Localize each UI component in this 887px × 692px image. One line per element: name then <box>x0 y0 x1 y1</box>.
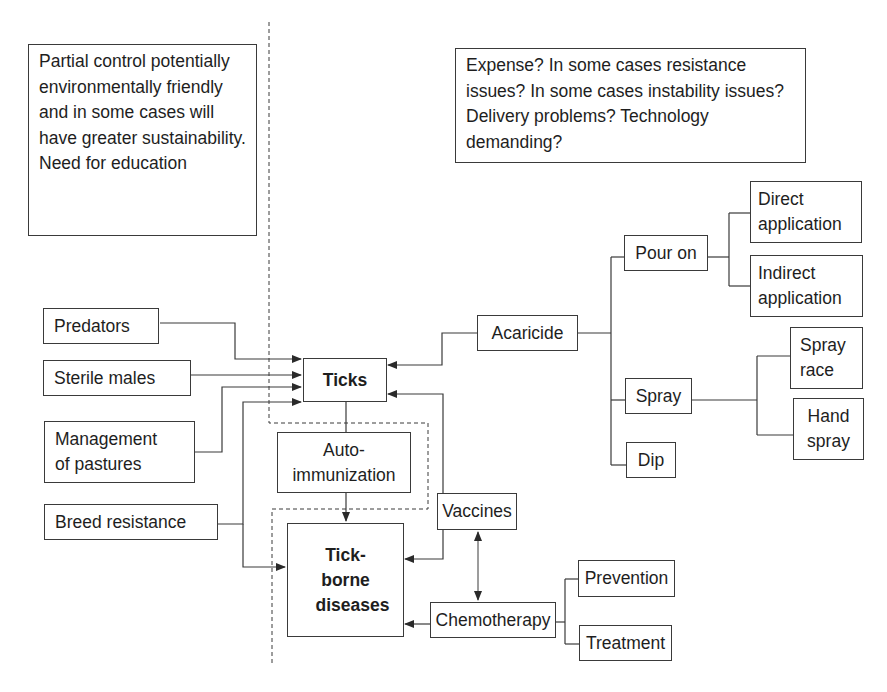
node-spray-race: Spray race <box>790 327 863 389</box>
node-indirect-application: Indirect application <box>750 255 863 317</box>
node-label: Auto-immunization <box>289 438 399 488</box>
node-label: Pour on <box>635 243 696 264</box>
node-tick-borne-diseases: Tick-borne diseases <box>287 523 404 637</box>
node-treatment: Treatment <box>579 625 672 661</box>
node-auto-immunization: Auto-immunization <box>277 432 411 493</box>
node-spray: Spray <box>625 378 692 414</box>
node-label: Spray <box>636 386 682 407</box>
node-hand-spray: Hand spray <box>793 398 864 460</box>
node-management-of-pastures: Management of pastures <box>44 421 195 483</box>
node-label: Hand spray <box>804 404 854 454</box>
node-label: Spray race <box>800 333 850 383</box>
node-label: Predators <box>54 316 130 337</box>
node-label: Breed resistance <box>55 512 186 533</box>
node-chemotherapy: Chemotherapy <box>430 602 556 638</box>
node-dip: Dip <box>626 442 676 478</box>
node-acaricide: Acaricide <box>477 315 578 351</box>
node-label: Indirect application <box>758 261 848 311</box>
drawbacks-note: Expense? In some cases resistance issues… <box>455 48 806 163</box>
node-label: Treatment <box>586 633 665 654</box>
node-direct-application: Direct application <box>750 181 862 243</box>
node-label: Dip <box>638 450 664 471</box>
node-ticks: Ticks <box>303 358 387 402</box>
node-vaccines: Vaccines <box>437 493 517 530</box>
node-label: Vaccines <box>442 501 512 522</box>
node-predators: Predators <box>43 308 159 344</box>
node-label: Sterile males <box>54 368 155 389</box>
node-label: Management of pastures <box>55 427 175 477</box>
node-breed-resistance: Breed resistance <box>44 504 218 540</box>
node-label: Direct application <box>758 187 848 237</box>
node-label: Prevention <box>585 568 669 589</box>
node-sterile-males: Sterile males <box>43 360 191 396</box>
node-label: Tick-borne diseases <box>316 543 376 618</box>
benefits-note: Partial control potentially environmenta… <box>28 44 257 236</box>
node-label: Acaricide <box>492 323 564 344</box>
node-label: Chemotherapy <box>436 610 551 631</box>
node-pour-on: Pour on <box>624 235 708 271</box>
node-label: Ticks <box>323 370 367 391</box>
node-prevention: Prevention <box>578 560 675 597</box>
